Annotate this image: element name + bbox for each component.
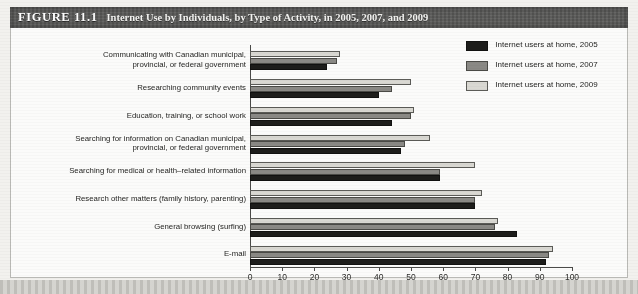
chart-bar (250, 79, 411, 85)
chart-bar (250, 58, 337, 64)
x-axis-tick (475, 267, 476, 271)
chart-category-group: General browsing (surfing) (250, 218, 572, 237)
x-axis-tick (540, 267, 541, 271)
chart-bar (250, 107, 414, 113)
chart-category-group: Communicating with Canadian municipal,pr… (250, 51, 572, 70)
chart-panel: Internet users at home, 2005Internet use… (10, 28, 628, 278)
chart-bar (250, 203, 475, 209)
category-label: Searching for medical or health–related … (11, 166, 246, 175)
figure-header-band: FIGURE 11.1 Internet Use by Individuals,… (10, 7, 628, 28)
category-label: Communicating with Canadian municipal,pr… (11, 50, 246, 69)
category-label: Research other matters (family history, … (11, 194, 246, 203)
plot-area: 0102030405060708090100Communicating with… (250, 45, 572, 267)
chart-bar (250, 51, 340, 57)
chart-bar (250, 218, 498, 224)
chart-bar (250, 120, 392, 126)
chart-bar (250, 169, 440, 175)
x-axis-tick (508, 267, 509, 271)
chart-category-group: Research other matters (family history, … (250, 190, 572, 209)
chart-bar (250, 252, 549, 258)
figure-root: FIGURE 11.1 Internet Use by Individuals,… (0, 0, 638, 294)
chart-bar (250, 64, 327, 70)
chart-bar (250, 246, 553, 252)
chart-bar (250, 197, 475, 203)
chart-bar (250, 148, 401, 154)
x-axis-tick (314, 267, 315, 271)
chart-bar (250, 259, 546, 265)
chart-bar (250, 231, 517, 237)
x-axis-tick (282, 267, 283, 271)
figure-title: Internet Use by Individuals, by Type of … (107, 12, 429, 23)
category-label: General browsing (surfing) (11, 222, 246, 231)
chart-bar (250, 224, 495, 230)
chart-category-group: Education, training, or school work (250, 107, 572, 126)
chart-bar (250, 86, 392, 92)
chart-category-group: Searching for medical or health–related … (250, 162, 572, 181)
category-label: Education, training, or school work (11, 111, 246, 120)
x-axis-tick (250, 267, 251, 271)
chart-bar (250, 92, 379, 98)
chart-bar (250, 190, 482, 196)
chart-bar (250, 113, 411, 119)
x-axis-tick (572, 267, 573, 271)
chart-category-group: Searching for information on Canadian mu… (250, 135, 572, 154)
category-label: E-mail (11, 249, 246, 258)
chart-category-group: Researching community events (250, 79, 572, 98)
chart-category-group: E-mail (250, 246, 572, 265)
chart-bar (250, 135, 430, 141)
x-axis-tick (347, 267, 348, 271)
figure-number: FIGURE 11.1 (18, 10, 98, 25)
x-axis-tick (411, 267, 412, 271)
chart-bar (250, 162, 475, 168)
chart-bar (250, 141, 405, 147)
category-label: Searching for information on Canadian mu… (11, 134, 246, 153)
x-axis-tick (379, 267, 380, 271)
x-axis-tick (443, 267, 444, 271)
category-label: Researching community events (11, 83, 246, 92)
chart-bar (250, 175, 440, 181)
page-bottom-edge (0, 280, 638, 294)
